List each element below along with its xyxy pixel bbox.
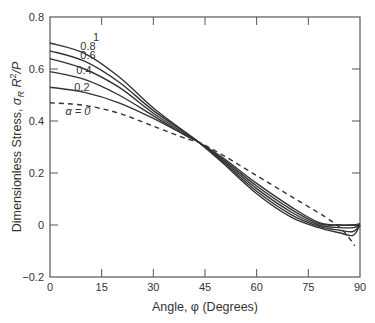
curve-label: 0.2 — [74, 81, 89, 93]
y-tick-label: −0.2 — [22, 271, 44, 283]
y-axis-title: Dimensionless Stress, σR R2/P — [8, 61, 26, 232]
x-tick-label: 75 — [302, 281, 314, 293]
curve-label: 0.6 — [80, 49, 95, 61]
x-tick-label: 45 — [199, 281, 211, 293]
y-tick-label: 0.6 — [29, 63, 44, 75]
curve-1 — [50, 43, 360, 236]
x-tick-label: 30 — [147, 281, 159, 293]
x-tick-label: 15 — [96, 281, 108, 293]
x-axis-title: Angle, φ (Degrees) — [152, 300, 258, 314]
x-tick-label: 0 — [47, 281, 53, 293]
stress-angle-chart: 0153045607590−0.200.20.40.60.8 10.80.60.… — [0, 0, 375, 323]
curve-0-8 — [50, 51, 360, 232]
curve-label: 0.4 — [76, 64, 91, 76]
x-tick-label: 60 — [251, 281, 263, 293]
y-tick-label: 0.2 — [29, 167, 44, 179]
y-tick-label: 0.8 — [29, 11, 44, 23]
y-tick-label: 0 — [38, 219, 44, 231]
curve-label: α = 0 — [66, 105, 92, 117]
x-tick-label: 90 — [354, 281, 366, 293]
axis-ticks: 0153045607590−0.200.20.40.60.8 — [22, 11, 366, 293]
curves — [50, 43, 360, 246]
y-tick-label: 0.4 — [29, 115, 44, 127]
